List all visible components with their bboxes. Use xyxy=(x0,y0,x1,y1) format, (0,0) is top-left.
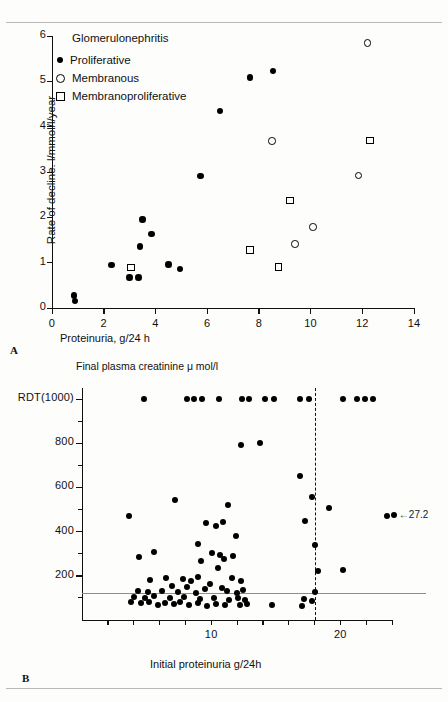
data-point xyxy=(213,601,219,607)
data-point-0 xyxy=(108,262,115,269)
y-minor-tick xyxy=(78,597,83,598)
data-point xyxy=(221,556,227,562)
x-tick xyxy=(103,308,104,314)
x-tick-label: 8 xyxy=(244,317,274,329)
data-point-2 xyxy=(366,137,374,145)
data-point xyxy=(224,588,230,594)
x-axis-title: Initial proteinuria g/24h xyxy=(150,658,261,670)
figure-page: Glomerulonephritis Proliferative Membran… xyxy=(0,0,448,702)
data-point xyxy=(211,595,217,601)
y-tick-label: 6 xyxy=(26,28,46,40)
y-tick xyxy=(47,262,53,263)
data-point xyxy=(147,577,153,583)
data-point-0 xyxy=(135,274,142,281)
y-tick-label: RDT(1000) xyxy=(6,391,74,403)
x-axis-title: Proteinuria, g/24 h xyxy=(60,332,150,344)
data-point xyxy=(226,597,232,603)
data-point xyxy=(229,575,235,581)
y-tick-label: 5 xyxy=(26,73,46,85)
x-tick xyxy=(314,620,315,625)
y-axis-line xyxy=(82,388,83,620)
x-tick-label: 4 xyxy=(140,317,170,329)
x-tick-label: 2 xyxy=(89,317,119,329)
x-tick-label: 14 xyxy=(399,317,429,329)
x-tick xyxy=(258,308,259,314)
panel-a-plot-area: Rate of decline. l/mmol/l/year 012345602… xyxy=(52,36,414,308)
data-point xyxy=(244,601,250,607)
data-point xyxy=(195,541,201,547)
data-point-0 xyxy=(247,74,254,81)
data-point xyxy=(299,603,305,609)
data-point xyxy=(138,600,144,606)
data-point xyxy=(209,550,215,556)
x-tick xyxy=(366,620,367,625)
data-point xyxy=(246,396,252,402)
data-point xyxy=(269,602,275,608)
data-point xyxy=(306,396,312,402)
y-tick xyxy=(47,217,53,218)
data-point xyxy=(233,533,239,539)
x-tick-label: 10 xyxy=(196,628,226,640)
data-point xyxy=(312,589,318,595)
data-point xyxy=(225,502,231,508)
data-point xyxy=(204,603,210,609)
data-point xyxy=(184,396,190,402)
data-point-2 xyxy=(246,246,254,254)
page-rule-bottom xyxy=(6,688,442,689)
data-point xyxy=(315,568,321,574)
data-point xyxy=(195,600,201,606)
panel-b-title: Final plasma creatinine μ mol/l xyxy=(76,360,218,372)
data-point-0 xyxy=(148,231,155,238)
data-point xyxy=(151,593,157,599)
data-point xyxy=(384,513,390,519)
data-point xyxy=(262,396,268,402)
x-axis-line xyxy=(52,308,414,309)
y-tick xyxy=(47,126,53,127)
data-point xyxy=(271,396,277,402)
annotation-27-2: ←27.2 xyxy=(391,509,428,520)
data-point-0 xyxy=(139,216,146,223)
data-point xyxy=(146,599,152,605)
panel-b-plot-area: 200400600800RDT(1000)1020←27.2 xyxy=(82,388,392,620)
y-tick-label: 3 xyxy=(26,164,46,176)
data-point xyxy=(126,513,132,519)
data-point xyxy=(238,578,244,584)
x-tick xyxy=(133,620,134,625)
data-point xyxy=(370,396,376,402)
y-axis-title: Rate of decline. l/mmol/l/year xyxy=(45,5,57,335)
y-tick-label: 1 xyxy=(26,255,46,267)
data-point xyxy=(240,587,246,593)
x-tick xyxy=(159,620,160,625)
data-point xyxy=(163,575,169,581)
data-point xyxy=(239,396,245,402)
y-tick xyxy=(47,81,53,82)
annotation-dot xyxy=(391,512,397,518)
x-tick-label: 6 xyxy=(192,317,222,329)
data-point xyxy=(340,396,346,402)
data-point xyxy=(297,396,303,402)
data-point-2 xyxy=(286,197,294,205)
data-point xyxy=(207,581,213,587)
y-tick-label: 200 xyxy=(6,568,74,580)
data-point xyxy=(213,523,219,529)
annotation-label: ←27.2 xyxy=(399,509,428,520)
data-point xyxy=(203,520,209,526)
data-point xyxy=(136,554,142,560)
x-tick xyxy=(52,308,53,314)
data-point xyxy=(171,601,177,607)
data-point-0 xyxy=(126,274,133,281)
y-tick xyxy=(76,399,83,400)
y-tick xyxy=(47,172,53,173)
data-point xyxy=(230,553,236,559)
data-point xyxy=(202,586,208,592)
data-point xyxy=(222,602,228,608)
data-point xyxy=(195,574,201,580)
data-point xyxy=(141,396,147,402)
data-point xyxy=(191,396,197,402)
data-point xyxy=(128,599,134,605)
y-tick xyxy=(76,531,83,532)
data-point-1 xyxy=(268,137,276,145)
data-point-0 xyxy=(197,173,204,180)
data-point xyxy=(155,602,161,608)
vertical-reference-line xyxy=(315,388,316,620)
